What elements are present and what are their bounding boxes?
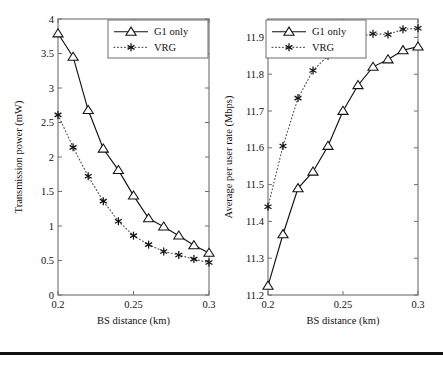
x-tick-label: 0.2 (261, 299, 274, 310)
x-tick-label: 0.3 (202, 299, 215, 310)
y-tick-label: 11.7 (246, 106, 264, 117)
axes-frame (268, 19, 418, 295)
triangle-up-marker (83, 105, 93, 113)
x-axis-title: BS distance (km) (307, 315, 380, 327)
y-tick-label: 11.8 (246, 69, 264, 80)
triangle-up-marker (278, 230, 288, 238)
triangle-up-marker (308, 167, 318, 175)
triangle-up-marker (174, 231, 184, 239)
plot-legend-right: G1 onlyVRG (266, 20, 366, 58)
triangle-up-marker (144, 214, 154, 222)
y-axis-title: Transmission power (mW) (13, 100, 25, 213)
asterisk-marker (400, 25, 407, 33)
triangle-up-marker (263, 281, 273, 289)
asterisk-marker (265, 203, 272, 211)
y-tick-label: 0 (49, 290, 54, 301)
triangle-up-marker (113, 165, 123, 173)
y-tick-label: 11.2 (246, 290, 264, 301)
asterisk-marker (295, 94, 302, 102)
triangle-up-marker (204, 248, 214, 256)
plot-series-left (53, 29, 214, 267)
asterisk-marker (385, 30, 392, 38)
page-divider-rule (0, 352, 443, 355)
y-tick-label: 11.3 (246, 253, 264, 264)
asterisk-marker (160, 248, 167, 256)
transmission-power-plot: G1 onlyVRG 0.20.250.300.511.522.533.54BS… (0, 0, 221, 340)
y-tick-label: 11.5 (246, 179, 264, 190)
y-tick-label: 1 (49, 221, 54, 232)
triangle-up-marker (53, 29, 63, 37)
y-axis-title: Average per user rate (Mbps) (223, 95, 235, 218)
x-tick-label: 0.3 (411, 299, 424, 310)
plot-labels-right: 0.20.250.311.211.311.411.511.611.711.811… (223, 32, 425, 327)
y-tick-label: 11.6 (246, 142, 264, 153)
triangle-up-marker (98, 144, 108, 152)
triangle-up-marker (368, 62, 378, 70)
legend-label-vrg: VRG (154, 42, 177, 53)
asterisk-marker (175, 251, 182, 259)
plot-axes-left (58, 19, 209, 295)
legend-label-vrg: VRG (312, 42, 335, 53)
legend-label-g1-only: G1 only (154, 26, 189, 37)
axes-frame (58, 19, 209, 295)
plot-labels-left: 0.20.250.300.511.522.533.54BS distance (… (13, 14, 216, 327)
average-per-user-rate-plot: G1 onlyVRG 0.20.250.311.211.311.411.511.… (218, 0, 443, 340)
asterisk-marker (55, 111, 62, 119)
y-tick-label: 11.9 (246, 32, 264, 43)
x-tick-label: 0.25 (334, 299, 352, 310)
y-tick-label: 1.5 (41, 186, 54, 197)
y-tick-label: 2.5 (41, 117, 54, 128)
y-tick-label: 3.5 (41, 48, 54, 59)
asterisk-marker (145, 241, 152, 249)
series-line-g1-only (58, 33, 209, 252)
triangle-up-marker (323, 141, 333, 149)
y-tick-label: 0.5 (41, 255, 54, 266)
asterisk-marker (85, 172, 92, 180)
asterisk-marker (190, 255, 197, 263)
triangle-up-marker (128, 191, 138, 199)
legend-label-g1-only: G1 only (312, 26, 347, 37)
y-tick-label: 4 (49, 14, 55, 25)
triangle-up-marker (338, 106, 348, 114)
transmission-power-chart: G1 onlyVRG 0.20.250.300.511.522.533.54BS… (0, 0, 221, 340)
triangle-up-marker (413, 42, 423, 50)
y-tick-label: 2 (49, 152, 54, 163)
plot-legend-left: G1 onlyVRG (108, 20, 208, 58)
average-per-user-rate-chart: G1 onlyVRG 0.20.250.311.211.311.411.511.… (218, 0, 439, 340)
plot-axes-right (268, 19, 418, 295)
series-line-g1-only (268, 47, 418, 286)
y-tick-label: 11.4 (246, 216, 265, 227)
asterisk-marker (280, 142, 287, 150)
triangle-up-marker (68, 52, 78, 60)
x-axis-title: BS distance (km) (97, 315, 170, 327)
triangle-up-marker (159, 222, 169, 230)
triangle-up-marker (383, 55, 393, 63)
asterisk-marker (206, 259, 213, 267)
plot-series-right (263, 24, 423, 289)
figure-container: G1 onlyVRG 0.20.250.300.511.522.533.54BS… (0, 0, 443, 365)
asterisk-marker (415, 24, 422, 32)
y-tick-label: 3 (49, 83, 54, 94)
x-tick-label: 0.25 (124, 299, 142, 310)
x-tick-label: 0.2 (51, 299, 64, 310)
triangle-up-marker (189, 241, 199, 249)
asterisk-marker (70, 143, 77, 151)
